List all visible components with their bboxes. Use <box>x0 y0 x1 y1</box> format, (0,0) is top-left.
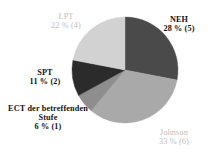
pie-label-neh-name: NEH <box>148 15 210 24</box>
pie-label-johnson-name: Johnson <box>142 128 206 137</box>
pie-label-spt-name: SPT <box>14 68 76 77</box>
pie-label-johnson-value: 33 % (6) <box>142 137 206 146</box>
pie-label-johnson: Johnson 33 % (6) <box>142 128 206 146</box>
pie-label-spt: SPT 11 % (2) <box>14 68 76 86</box>
pie-label-neh: NEH 28 % (5) <box>148 15 210 33</box>
pie-label-spt-value: 11 % (2) <box>14 77 76 86</box>
pie-label-lpt: LPT 22 % (4) <box>35 12 97 30</box>
pie-label-ect: ECT der betreffenden Stufe 6 % (1) <box>2 104 94 132</box>
pie-label-lpt-value: 22 % (4) <box>35 21 97 30</box>
pie-chart-figure: NEH 28 % (5) LPT 22 % (4) SPT 11 % (2) E… <box>0 0 220 160</box>
pie-label-lpt-name: LPT <box>35 12 97 21</box>
pie-label-ect-name: ECT der betreffenden Stufe <box>2 104 94 122</box>
pie-label-neh-value: 28 % (5) <box>148 24 210 33</box>
pie-label-ect-value: 6 % (1) <box>2 122 94 131</box>
